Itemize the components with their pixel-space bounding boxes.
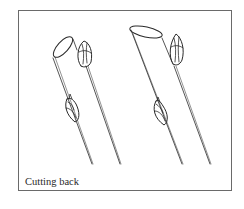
left-stem <box>50 34 121 164</box>
left-lower-bud-icon <box>66 94 79 122</box>
figure-caption: Cutting back <box>25 176 79 187</box>
left-stem-cut-icon <box>50 34 76 61</box>
left-upper-bud-icon <box>78 41 92 67</box>
right-lower-bud-icon <box>154 97 167 125</box>
right-upper-bud-icon <box>170 34 183 65</box>
right-stem <box>129 24 211 164</box>
